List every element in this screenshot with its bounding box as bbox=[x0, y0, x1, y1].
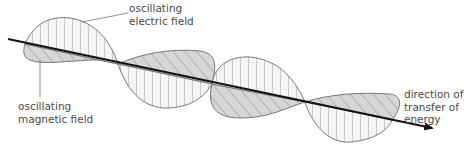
electric-leader-line bbox=[82, 13, 128, 22]
em-wave-diagram bbox=[0, 0, 464, 152]
direction-label: direction of transfer of energy bbox=[404, 88, 463, 126]
electric-field-label: oscillating electric field bbox=[129, 2, 194, 27]
magnetic-field-label: oscillating magnetic field bbox=[18, 100, 93, 125]
